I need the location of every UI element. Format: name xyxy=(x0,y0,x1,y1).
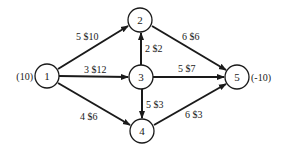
edge-label-3-4: 5 $3 xyxy=(146,99,164,110)
node-5-supply: (-10) xyxy=(251,72,271,84)
edge-label-4-5: 6 $3 xyxy=(185,109,203,120)
edge-label-3-5: 5 $7 xyxy=(178,63,196,74)
node-3-label: 3 xyxy=(138,71,144,83)
edge-label-1-3: 3 $12 xyxy=(84,64,107,75)
edge-label-1-2: 5 $10 xyxy=(76,31,99,42)
node-3: 3 xyxy=(129,65,153,89)
edge-label-3-2: 2 $2 xyxy=(145,43,163,54)
node-5: 5 xyxy=(225,65,249,89)
edge-label-2-5: 6 $6 xyxy=(182,31,200,42)
node-4: 4 xyxy=(130,119,154,143)
node-2: 2 xyxy=(128,8,152,32)
node-1-supply: (10) xyxy=(16,71,33,83)
network-diagram: 5 $10 3 $12 4 $6 2 $2 6 $6 5 $7 5 $3 6 $… xyxy=(0,0,284,157)
node-4-label: 4 xyxy=(139,125,145,137)
node-1: 1 xyxy=(35,64,59,88)
node-2-label: 2 xyxy=(137,14,143,26)
edge-label-1-4: 4 $6 xyxy=(80,111,98,122)
node-1-label: 1 xyxy=(44,70,50,82)
edge-1-3 xyxy=(59,76,128,77)
node-5-label: 5 xyxy=(234,71,240,83)
